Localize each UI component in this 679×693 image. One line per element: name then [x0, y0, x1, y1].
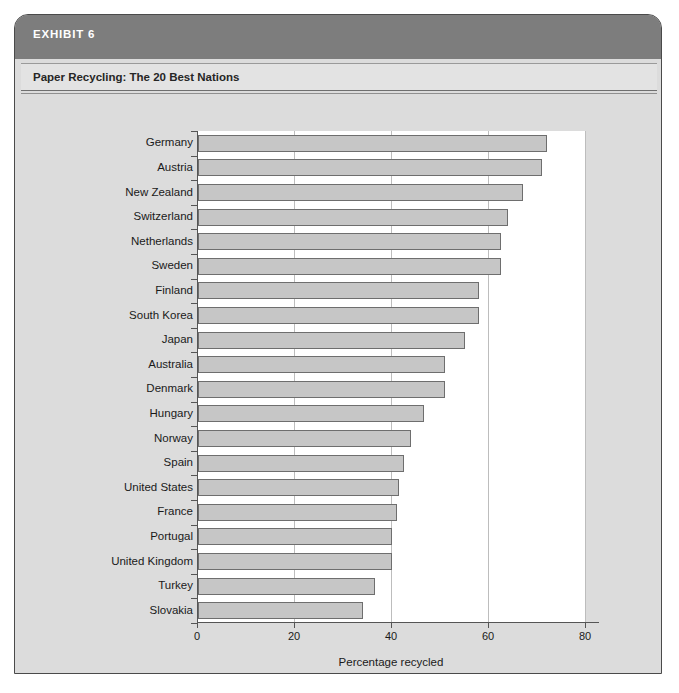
category-label-austria: Austria: [33, 161, 193, 173]
category-label-portugal: Portugal: [33, 530, 193, 542]
bar-germany: [198, 135, 547, 152]
x-tick-60: [488, 623, 489, 628]
x-axis-line: [197, 622, 599, 623]
category-label-spain: Spain: [33, 456, 193, 468]
category-label-norway: Norway: [33, 432, 193, 444]
bar-finland: [198, 282, 479, 299]
category-label-new-zealand: New Zealand: [33, 186, 193, 198]
bar-new-zealand: [198, 184, 523, 201]
chart-panel: GermanyAustriaNew ZealandSwitzerlandNeth…: [21, 93, 657, 668]
gridline-40: [391, 131, 392, 623]
category-label-netherlands: Netherlands: [33, 235, 193, 247]
x-tick-0: [197, 623, 198, 628]
bar-norway: [198, 430, 411, 447]
category-label-switzerland: Switzerland: [33, 210, 193, 222]
bar-netherlands: [198, 233, 501, 250]
x-tick-40: [391, 623, 392, 628]
exhibit-subtitle: Paper Recycling: The 20 Best Nations: [33, 71, 239, 83]
exhibit-subtitle-bar: Paper Recycling: The 20 Best Nations: [21, 63, 657, 91]
x-tick-80: [585, 623, 586, 628]
category-label-sweden: Sweden: [33, 259, 193, 271]
gridline-80: [585, 131, 586, 623]
bar-spain: [198, 455, 404, 472]
category-label-japan: Japan: [33, 333, 193, 345]
gridline-60: [488, 131, 489, 623]
bar-south-korea: [198, 307, 479, 324]
x-tick-label-0: 0: [177, 630, 217, 642]
x-tick-label-40: 40: [371, 630, 411, 642]
bar-portugal: [198, 528, 392, 545]
gridline-20: [294, 131, 295, 623]
exhibit-label: EXHIBIT 6: [33, 28, 95, 40]
category-label-united-states: United States: [33, 481, 193, 493]
bar-sweden: [198, 258, 501, 275]
bar-slovakia: [198, 602, 363, 619]
category-label-germany: Germany: [33, 136, 193, 148]
category-label-slovakia: Slovakia: [33, 604, 193, 616]
x-tick-20: [294, 623, 295, 628]
bar-hungary: [198, 405, 424, 422]
bar-japan: [198, 332, 465, 349]
bar-australia: [198, 356, 445, 373]
bar-austria: [198, 159, 542, 176]
bar-turkey: [198, 578, 375, 595]
bar-united-states: [198, 479, 399, 496]
bar-france: [198, 504, 397, 521]
y-axis-line: [197, 131, 198, 623]
category-label-united-kingdom: United Kingdom: [33, 555, 193, 567]
category-label-australia: Australia: [33, 358, 193, 370]
bar-switzerland: [198, 209, 508, 226]
x-tick-label-80: 80: [565, 630, 605, 642]
category-label-finland: Finland: [33, 284, 193, 296]
x-tick-label-20: 20: [274, 630, 314, 642]
bar-united-kingdom: [198, 553, 392, 570]
exhibit-header-band: EXHIBIT 6: [15, 15, 661, 59]
category-labels-group: GermanyAustriaNew ZealandSwitzerlandNeth…: [25, 94, 193, 668]
category-label-south-korea: South Korea: [33, 309, 193, 321]
category-label-france: France: [33, 505, 193, 517]
x-tick-label-60: 60: [468, 630, 508, 642]
category-label-denmark: Denmark: [33, 382, 193, 394]
exhibit-card: EXHIBIT 6 Paper Recycling: The 20 Best N…: [14, 14, 662, 674]
category-label-hungary: Hungary: [33, 407, 193, 419]
category-label-turkey: Turkey: [33, 579, 193, 591]
x-axis-title: Percentage recycled: [197, 656, 585, 668]
bar-denmark: [198, 381, 445, 398]
